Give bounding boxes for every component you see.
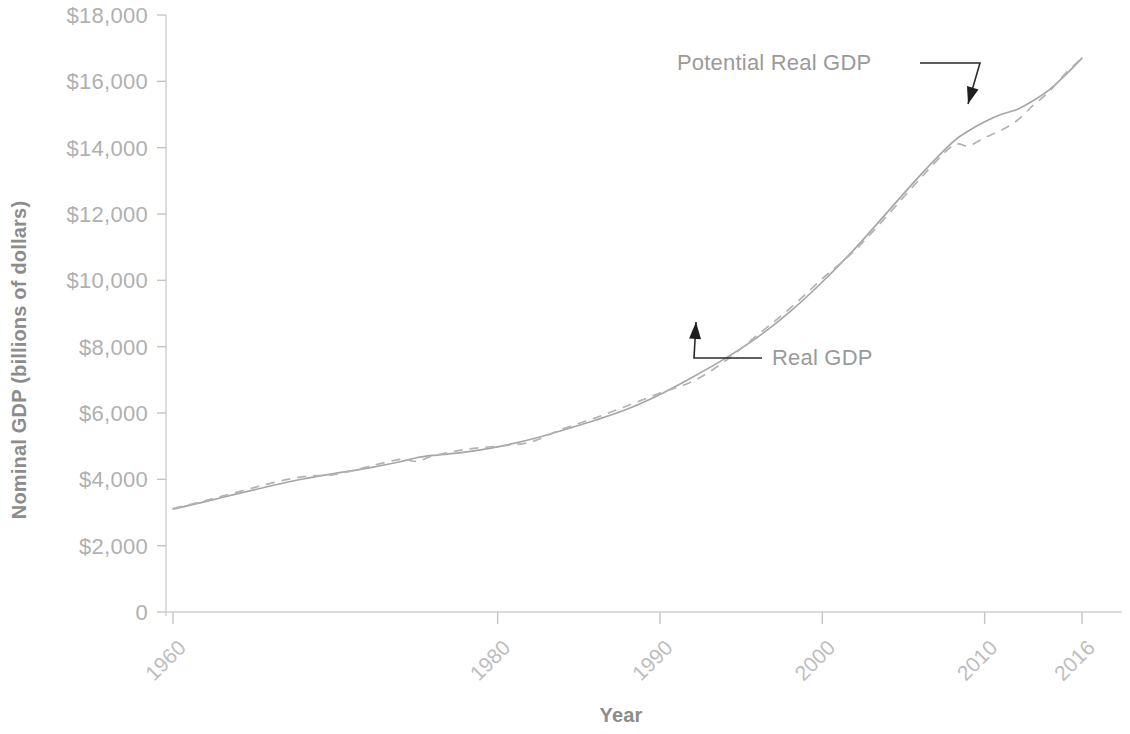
data-series-group <box>173 58 1082 509</box>
x-axis-tick-label: 1960 <box>141 636 190 685</box>
y-axis-tick-label: $10,000 <box>66 268 148 293</box>
y-axis-tick-label: $8,000 <box>79 335 148 360</box>
real-gdp-annotation-label: Real GDP <box>772 345 873 370</box>
potential-real-gdp-annotation-arrowhead <box>967 86 979 104</box>
y-axis-title: Nominal GDP (billions of dollars) <box>8 201 30 519</box>
y-axis-tick-label: 0 <box>135 600 148 625</box>
y-axis-tick-label: $2,000 <box>79 534 148 559</box>
y-axis-tick-label: $4,000 <box>79 467 148 492</box>
y-axis-tick-label: $16,000 <box>66 69 148 94</box>
potential-real-gdp-line <box>173 58 1082 509</box>
x-axis-tick-label: 1980 <box>465 636 514 685</box>
y-axis-tick-label: $18,000 <box>66 3 148 28</box>
y-axis-tick-label: $14,000 <box>66 136 148 161</box>
x-axis: 196019801990200020102016 <box>141 612 1122 685</box>
real-gdp-line <box>173 58 1082 508</box>
real-gdp-annotation-arrowhead <box>689 322 701 339</box>
y-axis: 0$2,000$4,000$6,000$8,000$10,000$12,000$… <box>66 3 166 625</box>
x-axis-title: Year <box>599 704 642 726</box>
y-axis-tick-label: $6,000 <box>79 401 148 426</box>
y-axis-tick-label: $12,000 <box>66 202 148 227</box>
x-axis-tick-label: 2010 <box>952 636 1001 685</box>
chart-canvas: Nominal GDP (billions of dollars) Year 0… <box>0 0 1130 734</box>
x-axis-tick-label: 2016 <box>1050 636 1099 685</box>
gdp-chart-figure: Nominal GDP (billions of dollars) Year 0… <box>0 0 1130 734</box>
potential-real-gdp-annotation-label: Potential Real GDP <box>677 50 871 75</box>
annotations-group: Potential Real GDPReal GDP <box>677 50 980 370</box>
x-axis-tick-label: 2000 <box>790 636 839 685</box>
x-axis-tick-label: 1990 <box>628 636 677 685</box>
